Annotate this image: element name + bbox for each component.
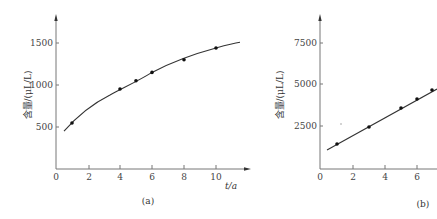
data-point [118, 87, 122, 91]
panel-a: 1500 1000 500 0 2 4 6 8 10 含量/(μL/L) t/a [22, 14, 251, 206]
x-tick-label: 0 [53, 172, 59, 182]
x-tick-label: 8 [181, 172, 187, 182]
x-tick-label: 6 [414, 172, 420, 182]
data-point [335, 142, 339, 146]
data-point [150, 71, 154, 75]
y-axis-title-b: 含量/(μL/L) [274, 71, 285, 120]
data-point [70, 121, 74, 125]
x-axis-title-a: t/a [225, 181, 237, 191]
y-tick-label: 1500 [30, 38, 53, 48]
stray-mark [340, 123, 341, 124]
fit-line-b [327, 89, 437, 150]
x-tick-label: 2 [350, 172, 356, 182]
figure: 1500 1000 500 0 2 4 6 8 10 含量/(μL/L) t/a [0, 0, 437, 219]
x-ticks-b: 0 2 4 6 [317, 165, 420, 182]
panel-label-a: (a) [142, 196, 154, 206]
x-tick-label: 10 [210, 172, 222, 182]
y-axis-arrow-icon [54, 14, 57, 21]
y-tick-label: 5000 [294, 79, 317, 89]
data-point [214, 46, 218, 50]
y-tick-label: 2500 [294, 121, 317, 131]
x-tick-label: 6 [149, 172, 155, 182]
data-points-a [70, 46, 218, 125]
panel-b: 7500 5000 2500 0 2 4 6 含量/(μL/L) (b) [274, 14, 437, 209]
y-axis-arrow-icon [318, 14, 321, 21]
data-point [415, 97, 419, 101]
panel-label-b: (b) [417, 199, 430, 209]
y-tick-label: 500 [36, 122, 53, 132]
fit-curve-a [64, 42, 240, 131]
y-ticks-b: 7500 5000 2500 [294, 38, 323, 131]
x-tick-label: 2 [86, 172, 92, 182]
y-axis-title-a: 含量/(μL/L) [22, 71, 33, 120]
x-axis-arrow-icon [244, 167, 251, 170]
x-tick-label: 0 [317, 172, 323, 182]
data-point [134, 79, 138, 83]
data-point [399, 106, 403, 110]
x-ticks-a: 0 2 4 6 8 10 [53, 165, 222, 182]
data-point [182, 58, 186, 62]
x-tick-label: 4 [382, 172, 388, 182]
data-point [367, 125, 371, 129]
y-tick-label: 1000 [30, 80, 53, 90]
x-tick-label: 4 [117, 172, 123, 182]
data-point [430, 88, 434, 92]
y-tick-label: 7500 [294, 38, 317, 48]
y-ticks-a: 1500 1000 500 [30, 38, 59, 132]
